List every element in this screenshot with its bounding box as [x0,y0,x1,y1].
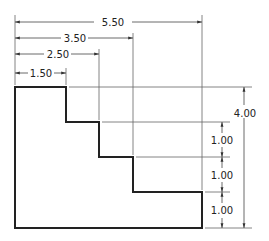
dim-1-50: 1.50 [30,68,52,79]
horizontal-dimensions [15,22,202,73]
dim-2-50: 2.50 [47,49,69,60]
dim-1-00-top: 1.00 [211,135,233,146]
dim-4-00: 4.00 [234,108,256,119]
dim-5-50: 5.50 [102,17,124,28]
stepped-profile-outline [15,87,202,228]
dim-1-00-middle: 1.00 [211,170,233,181]
technical-drawing: 5.50 3.50 2.50 1.50 1.00 1.00 1.00 4.00 [0,0,269,241]
dim-3-50: 3.50 [64,33,86,44]
extension-lines [15,15,252,228]
dim-1-00-bottom: 1.00 [211,205,233,216]
